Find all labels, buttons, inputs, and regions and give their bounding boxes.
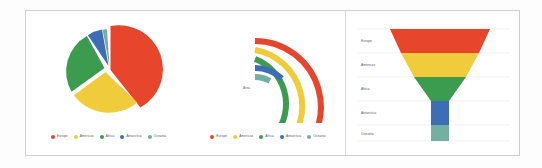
legend-swatch-americas — [233, 135, 237, 139]
legend-label-europe: Europe — [57, 135, 68, 138]
legend-swatch-antarctica — [280, 135, 284, 139]
pie-chart-legend: Europe Americas Africa Antarctica Oceani… — [26, 135, 191, 139]
radial-bar-chart-svg[interactable]: Area — [191, 11, 346, 123]
legend-swatch-antarctica — [120, 135, 124, 139]
radial-chart-center-label: Area — [243, 86, 250, 90]
legend-swatch-oceania — [148, 135, 152, 139]
funnel-labels: Europe Americas Africa Antarctica Oceani… — [361, 39, 376, 136]
charts-card: Europe Americas Africa Antarctica Oceani… — [25, 10, 520, 156]
legend-item-antarctica[interactable]: Antarctica — [120, 135, 141, 139]
pie-chart-area — [26, 11, 191, 123]
legend-item-oceania[interactable]: Oceania — [148, 135, 167, 139]
legend-label-oceania: Oceania — [313, 135, 326, 138]
funnel-band-oceania[interactable] — [431, 125, 449, 141]
legend-label-europe: Europe — [216, 135, 227, 138]
funnel-label-europe: Europe — [361, 39, 372, 43]
legend-label-africa: Africa — [106, 135, 115, 138]
legend-swatch-africa — [100, 135, 104, 139]
legend-item-europe[interactable]: Europe — [210, 135, 227, 139]
funnel-band-antarctica[interactable] — [431, 101, 449, 125]
legend-label-antarctica: Antarctica — [126, 135, 141, 138]
pie-slices[interactable] — [66, 25, 163, 113]
funnel-label-americas: Americas — [361, 63, 375, 67]
legend-label-antarctica: Antarctica — [286, 135, 301, 138]
legend-label-americas: Americas — [80, 135, 94, 138]
funnel-bands[interactable] — [390, 29, 490, 141]
radial-arcs[interactable] — [255, 41, 321, 123]
legend-item-africa[interactable]: Africa — [259, 135, 274, 139]
pie-chart-svg[interactable] — [26, 11, 191, 123]
funnel-chart-svg[interactable]: Europe Americas Africa Antarctica Oceani… — [347, 11, 520, 157]
legend-swatch-oceania — [307, 135, 311, 139]
funnel-band-africa[interactable] — [414, 77, 466, 101]
radial-bar-chart-area: Area — [191, 11, 345, 123]
radial-bar-chart-legend: Europe Americas Africa Antarctica Oceani… — [191, 135, 345, 139]
legend-item-africa[interactable]: Africa — [100, 135, 115, 139]
funnel-band-europe[interactable] — [390, 29, 490, 53]
screenshot-root: Europe Americas Africa Antarctica Oceani… — [0, 0, 542, 168]
legend-swatch-americas — [74, 135, 78, 139]
radial-arc-oceania[interactable] — [255, 77, 270, 81]
legend-label-americas: Americas — [239, 135, 253, 138]
pie-chart-panel: Europe Americas Africa Antarctica Oceani… — [26, 11, 191, 155]
funnel-chart-panel: Europe Americas Africa Antarctica Oceani… — [347, 11, 520, 155]
funnel-band-americas[interactable] — [401, 53, 479, 77]
legend-swatch-africa — [259, 135, 263, 139]
legend-label-oceania: Oceania — [154, 135, 167, 138]
legend-item-americas[interactable]: Americas — [74, 135, 94, 139]
funnel-label-africa: Africa — [361, 87, 370, 91]
legend-item-europe[interactable]: Europe — [51, 135, 68, 139]
radial-bar-chart-panel: Area Europe Americas Africa An — [191, 11, 346, 155]
legend-swatch-europe — [51, 135, 55, 139]
legend-swatch-europe — [210, 135, 214, 139]
legend-item-antarctica[interactable]: Antarctica — [280, 135, 301, 139]
legend-label-africa: Africa — [265, 135, 274, 138]
funnel-label-antarctica: Antarctica — [361, 111, 376, 115]
legend-item-oceania[interactable]: Oceania — [307, 135, 326, 139]
funnel-label-oceania: Oceania — [361, 132, 374, 136]
legend-item-americas[interactable]: Americas — [233, 135, 253, 139]
